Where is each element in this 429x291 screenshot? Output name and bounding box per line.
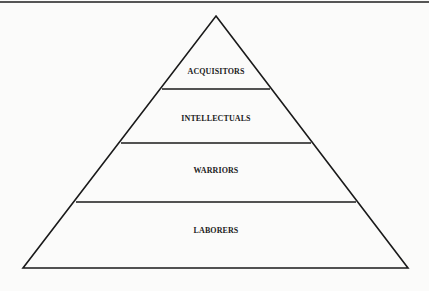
tier-label-acquisitors: ACQUISITORS <box>188 67 245 76</box>
tier-label-warriors: WARRIORS <box>194 166 239 175</box>
tier-label-intellectuals: INTELLECTUALS <box>181 114 250 123</box>
tier-label-laborers: LABORERS <box>194 226 239 235</box>
pyramid-diagram <box>0 0 429 291</box>
